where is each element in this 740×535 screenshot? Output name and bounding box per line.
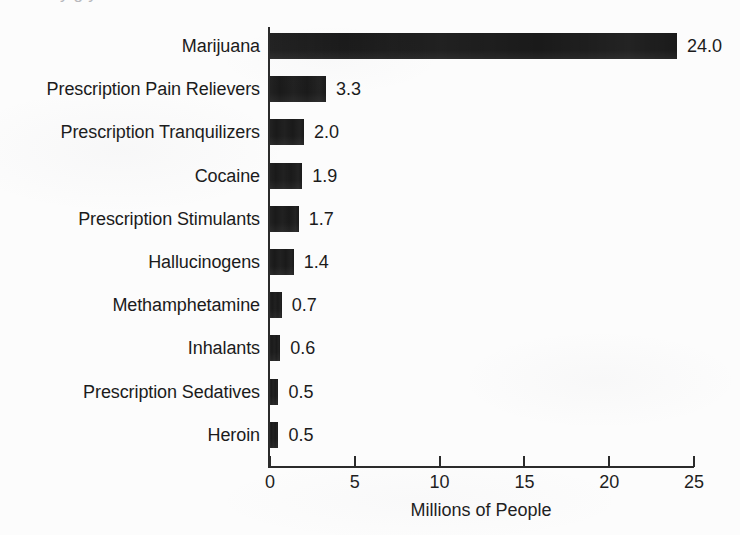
x-axis-line <box>268 466 694 468</box>
bar-row: Prescription Stimulants1.7 <box>0 206 740 232</box>
bar-value-label: 2.0 <box>314 122 339 143</box>
x-axis-tick-label: 25 <box>684 472 704 493</box>
bar <box>270 33 677 59</box>
bar-category-label: Methamphetamine <box>112 295 260 316</box>
bar-value-label: 1.4 <box>304 252 329 273</box>
bar-row: Prescription Tranquilizers2.0 <box>0 119 740 145</box>
bar <box>270 379 278 405</box>
bar-category-label: Prescription Pain Relievers <box>47 79 260 100</box>
x-axis-tick-label: 10 <box>430 472 450 493</box>
bar <box>270 206 299 232</box>
bar-value-label: 1.7 <box>309 208 334 229</box>
bar-category-label: Cocaine <box>195 165 260 186</box>
bar-value-label: 1.9 <box>312 165 337 186</box>
bar-row: Hallucinogens1.4 <box>0 249 740 275</box>
x-axis-tick <box>693 456 695 467</box>
x-axis-tick <box>269 456 271 467</box>
bar <box>270 249 294 275</box>
bar-row: Prescription Pain Relievers3.3 <box>0 76 740 102</box>
bar-category-label: Marijuana <box>182 36 260 57</box>
bar <box>270 163 302 189</box>
x-axis-tick-label: 0 <box>265 472 275 493</box>
bar-value-label: 0.6 <box>290 338 315 359</box>
bar-value-label: 3.3 <box>336 79 361 100</box>
bar-chart-plot: Marijuana24.0Prescription Pain Relievers… <box>0 0 740 535</box>
x-axis-tick-label: 15 <box>514 472 534 493</box>
bar-row: Inhalants0.6 <box>0 335 740 361</box>
x-axis-tick <box>354 456 356 467</box>
bar-value-label: 0.7 <box>292 295 317 316</box>
bar <box>270 76 326 102</box>
bar-category-label: Heroin <box>208 424 260 445</box>
bar-category-label: Inhalants <box>188 338 260 359</box>
x-axis-tick <box>608 456 610 467</box>
bar <box>270 292 282 318</box>
x-axis-tick-label: 20 <box>599 472 619 493</box>
bar-row: Marijuana24.0 <box>0 33 740 59</box>
page-right-edge-crop <box>728 0 740 535</box>
bar-category-label: Prescription Sedatives <box>83 381 260 402</box>
bar-row: Methamphetamine0.7 <box>0 292 740 318</box>
x-axis-title: Millions of People <box>268 500 694 521</box>
bar <box>270 119 304 145</box>
bar-row: Heroin0.5 <box>0 422 740 448</box>
bar-value-label: 0.5 <box>288 381 313 402</box>
bar-row: Prescription Sedatives0.5 <box>0 379 740 405</box>
bar-category-label: Prescription Tranquilizers <box>61 122 260 143</box>
x-axis-tick-label: 5 <box>350 472 360 493</box>
bar <box>270 422 278 448</box>
x-axis-tick <box>439 456 441 467</box>
bar-value-label: 0.5 <box>288 424 313 445</box>
bar-row: Cocaine1.9 <box>0 163 740 189</box>
bar <box>270 335 280 361</box>
bar-category-label: Prescription Stimulants <box>78 208 260 229</box>
bar-value-label: 24.0 <box>687 36 722 57</box>
x-axis-tick <box>523 456 525 467</box>
chart-page: y g y Marijuana24.0Prescription Pain Rel… <box>0 0 740 535</box>
bar-category-label: Hallucinogens <box>148 252 260 273</box>
